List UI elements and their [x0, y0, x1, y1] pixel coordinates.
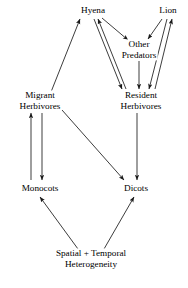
edge-heterogeneity-to-dicots [104, 197, 134, 249]
node-lion[interactable]: Lion [158, 5, 177, 16]
node-migrant-herbivores[interactable]: Migrant Herbivores [19, 90, 62, 111]
node-migrant-herbivores-label-line2: Herbivores [20, 101, 61, 112]
edge-migrant-to-dicots [62, 110, 124, 180]
node-resident-herbivores-label-line1: Resident [125, 90, 157, 100]
node-resident-herbivores[interactable]: Resident Herbivores [120, 90, 163, 111]
edge-lion-to-other-predators [148, 19, 162, 39]
node-other-predators[interactable]: Other Predators [121, 39, 158, 60]
node-heterogeneity-label-line1: Spatial + Temporal [56, 248, 126, 258]
node-monocots[interactable]: Monocots [21, 183, 60, 194]
node-heterogeneity[interactable]: Spatial + Temporal Heterogeneity [55, 248, 127, 269]
food-web-diagram: Hyena Lion Other Predators Migrant Herbi… [0, 0, 188, 288]
node-hyena[interactable]: Hyena [80, 5, 106, 16]
node-other-predators-label-line1: Other [129, 39, 150, 49]
edge-hyena-to-other-predators [102, 18, 128, 40]
node-monocots-label: Monocots [22, 183, 59, 193]
node-other-predators-label-line2: Predators [122, 50, 157, 61]
node-migrant-herbivores-label-line1: Migrant [25, 90, 55, 100]
node-dicots-label: Dicots [124, 183, 148, 193]
edge-hyena-to-resident [94, 19, 122, 89]
edge-heterogeneity-to-monocots [40, 197, 78, 249]
edge-migrant-to-hyena [51, 19, 80, 92]
edge-resident-to-lion [155, 19, 172, 89]
node-dicots[interactable]: Dicots [123, 183, 149, 194]
arrow-edge-layer [0, 0, 188, 288]
node-lion-label: Lion [159, 5, 176, 15]
node-hyena-label: Hyena [81, 5, 105, 15]
node-heterogeneity-label-line2: Heterogeneity [56, 259, 126, 270]
node-resident-herbivores-label-line2: Herbivores [121, 101, 162, 112]
